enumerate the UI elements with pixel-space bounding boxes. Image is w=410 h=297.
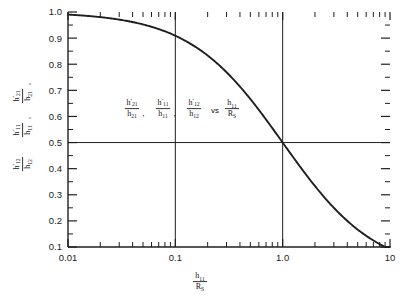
annotation-vs-label: vs	[211, 106, 219, 115]
x-tick-label: 1.0	[276, 252, 289, 263]
y-tick-label: 0.4	[49, 163, 62, 174]
x-tick-label: 0.1	[169, 252, 182, 263]
y-axis-label-comma: ,	[23, 83, 32, 85]
y-tick-label: 0.8	[49, 59, 62, 70]
annotation-comma: ,	[143, 109, 145, 118]
y-tick-label: 0.5	[49, 137, 62, 148]
y-tick-label: 0.3	[49, 189, 62, 200]
y-tick-label: 0.2	[49, 215, 62, 226]
semilog-chart: 0.10.20.30.40.50.60.70.80.91.00.010.11.0…	[0, 0, 410, 297]
annotation-comma: ,	[174, 109, 176, 118]
y-tick-label: 0.1	[49, 241, 62, 252]
y-tick-label: 0.7	[49, 85, 62, 96]
y-tick-label: 0.6	[49, 111, 62, 122]
y-tick-label: 0.9	[49, 33, 62, 44]
x-tick-label: 0.01	[59, 252, 78, 263]
y-axis-label-comma: ,	[23, 117, 32, 119]
y-tick-label: 1.0	[49, 6, 62, 17]
x-tick-label: 10	[385, 252, 396, 263]
